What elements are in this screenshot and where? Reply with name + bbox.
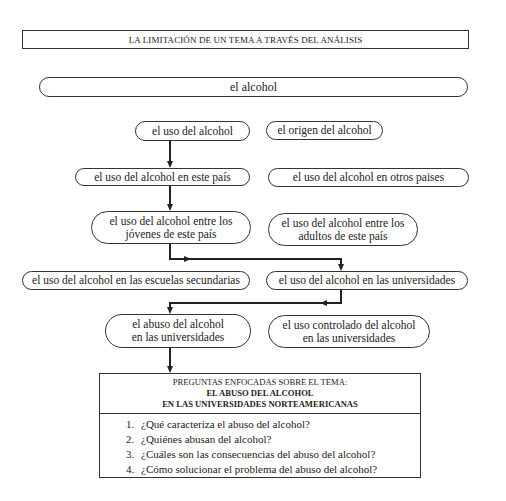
connector-line — [169, 141, 171, 162]
arrow-down-icon — [167, 307, 173, 314]
node-root: el alcohol — [39, 77, 468, 97]
question-number: 3. — [126, 447, 141, 462]
question-item: 3.¿Cuáles son las consecuencias del abus… — [126, 447, 420, 462]
topic-line-2: EN LAS UNIVERSIDADES NORTEAMERICANAS — [100, 399, 420, 410]
node-label: el uso del alcohol entre los — [282, 217, 405, 230]
arrow-down-icon — [167, 161, 173, 168]
connector-line — [169, 244, 171, 259]
node-label: el origen del alcohol — [277, 124, 371, 137]
node-uso-este-pais: el uso del alcohol en este país — [75, 168, 250, 186]
question-item: 4.¿Cómo solucionar el problema del abuso… — [126, 462, 420, 477]
connector-line — [169, 348, 171, 367]
connector-line — [169, 186, 171, 205]
question-text: ¿Quiénes abusan del alcohol? — [141, 433, 271, 445]
question-text: ¿Cuáles son las consecuencias del abuso … — [141, 448, 375, 460]
node-uso-otros-paises: el uso del alcohol en otros paises — [268, 168, 469, 187]
node-label: el uso del alcohol — [152, 125, 233, 138]
node-uso-escuelas-secundarias: el uso del alcohol en las escuelas secun… — [22, 271, 250, 290]
questions-heading: PREGUNTAS ENFOCADAS SOBRE EL TEMA: — [100, 377, 420, 388]
node-label: en las universidades — [132, 331, 225, 344]
node-label: el uso del alcohol en otros paises — [293, 171, 444, 184]
question-item: 1.¿Qué caracteriza el abuso del alcohol? — [126, 417, 420, 432]
node-label: adultos de este país — [298, 230, 387, 243]
node-label: en las universidades — [303, 332, 396, 345]
diagram-title-box: LA LIMITACIÓN DE UN TEMA A TRAVÉS DEL AN… — [22, 30, 469, 49]
arrow-down-icon — [167, 366, 173, 373]
node-uso-jovenes: el uso del alcohol entre los jóvenes de … — [91, 211, 251, 244]
node-label: el uso del alcohol entre los — [110, 215, 233, 228]
node-origen-alcohol: el origen del alcohol — [266, 121, 383, 140]
node-label: el uso controlado del alcohol — [283, 319, 416, 332]
question-text: ¿Cómo solucionar el problema del abuso d… — [141, 463, 377, 475]
connector-line — [169, 302, 342, 304]
question-text: ¿Qué caracteriza el abuso del alcohol? — [141, 418, 310, 430]
questions-list: 1.¿Qué caracteriza el abuso del alcohol?… — [100, 414, 420, 477]
question-item: 2.¿Quiénes abusan del alcohol? — [126, 432, 420, 447]
questions-header: PREGUNTAS ENFOCADAS SOBRE EL TEMA: EL AB… — [100, 374, 420, 414]
node-abuso-universidades: el abuso del alcohol en las universidade… — [105, 314, 251, 348]
question-number: 1. — [126, 417, 141, 432]
question-number: 4. — [126, 462, 141, 477]
node-label: el abuso del alcohol — [132, 318, 224, 331]
node-uso-universidades: el uso del alcohol en las universidades — [266, 271, 468, 290]
node-label: el uso del alcohol en las escuelas secun… — [32, 274, 240, 287]
node-uso-controlado-universidades: el uso controlado del alcohol en las uni… — [268, 315, 430, 348]
node-label: jóvenes de este país — [125, 228, 216, 241]
topic-line-1: EL ABUSO DEL ALCOHOL — [100, 388, 420, 399]
node-root-label: el alcohol — [230, 81, 277, 94]
question-number: 2. — [126, 432, 141, 447]
focused-questions-box: PREGUNTAS ENFOCADAS SOBRE EL TEMA: EL AB… — [99, 373, 421, 478]
node-label: el uso del alcohol en este país — [94, 171, 231, 184]
arrow-right-icon — [184, 256, 191, 262]
diagram-title: LA LIMITACIÓN DE UN TEMA A TRAVÉS DEL AN… — [129, 35, 363, 45]
arrow-down-icon — [338, 264, 344, 271]
connector-line — [169, 258, 342, 260]
arrow-down-icon — [167, 204, 173, 211]
node-label: el uso del alcohol en las universidades — [279, 274, 455, 287]
arrow-left-icon — [320, 300, 327, 306]
node-uso-adultos: el uso del alcohol entre los adultos de … — [268, 213, 418, 246]
node-uso-alcohol: el uso del alcohol — [135, 121, 250, 141]
